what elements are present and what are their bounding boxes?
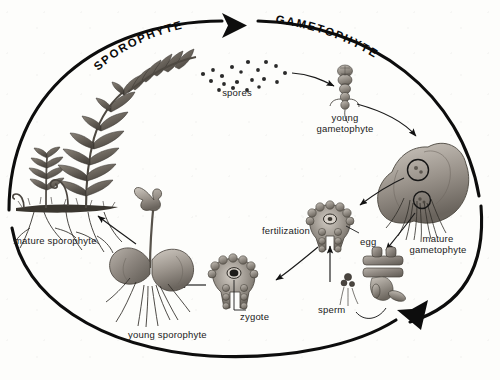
cycle-arrow-top-head <box>222 13 247 38</box>
label-spores: spores <box>214 88 260 99</box>
label-sperm: sperm <box>318 305 345 316</box>
zygote-leader-line <box>234 280 246 310</box>
arrow-spores-to-young-gametophyte <box>292 73 334 86</box>
small-frond <box>29 147 65 208</box>
archegonium-callout-circle <box>408 160 429 181</box>
label-zygote: zygote <box>240 312 269 323</box>
mature-sporophyte-illustration <box>13 49 196 253</box>
heading-sporophyte: SPOROPHYTE <box>91 18 184 72</box>
heading-gametophyte: GAMETOPHYTE <box>275 13 381 60</box>
fern-life-cycle-diagram: SPOROPHYTE GAMETOPHYTE spores younggamet… <box>0 0 500 380</box>
arrow-young-to-mature-sporophyte <box>98 216 136 244</box>
label-young-gametophyte: younggametophyte <box>310 113 380 135</box>
cycle-arc-right <box>410 206 482 322</box>
label-mature-gametophyte: maturegametophyte <box>404 234 472 256</box>
label-mature-sporophyte: mature sporophyte <box>14 236 97 247</box>
label-young-sporophyte: young sporophyte <box>128 330 207 341</box>
mature-gametophyte-illustration <box>378 143 469 242</box>
phase-headings: SPOROPHYTE GAMETOPHYTE <box>0 0 500 380</box>
zygote-illustration <box>208 254 258 310</box>
arrow-fertilization-to-zygote <box>276 247 318 280</box>
fiddlehead <box>13 180 68 208</box>
zygote-cell <box>230 269 239 276</box>
diagram-artwork <box>0 0 500 380</box>
label-egg: egg <box>360 237 376 248</box>
cycle-arc-top-right <box>258 21 479 196</box>
arrow-gametophyte-to-egg <box>360 178 404 205</box>
paper-texture <box>0 0 500 380</box>
archegonium-egg-illustration <box>306 201 354 252</box>
first-leaf <box>134 188 161 211</box>
label-fertilization: fertilization <box>262 226 310 237</box>
svg-text:SPOROPHYTE: SPOROPHYTE <box>91 18 184 72</box>
egg-leader-line <box>346 226 359 233</box>
antheridium-callout-circle <box>414 192 431 209</box>
young-sporophyte-illustration <box>106 188 194 328</box>
cycle-arrow-bottom-head <box>397 300 428 330</box>
large-frond <box>58 49 196 208</box>
antheridium-illustration <box>363 247 407 304</box>
sperm-swim-path <box>356 308 386 318</box>
egg-cell <box>324 214 337 224</box>
cycle-arc-top-left <box>9 21 222 210</box>
svg-text:GAMETOPHYTE: GAMETOPHYTE <box>275 13 381 60</box>
sperm-illustration <box>340 273 386 318</box>
